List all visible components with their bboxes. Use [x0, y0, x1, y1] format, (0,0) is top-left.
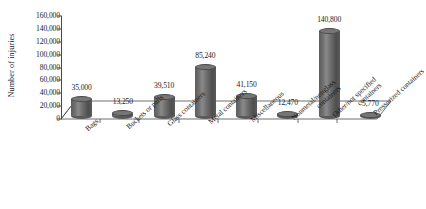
y-axis-tick-label: 140,000	[14, 25, 60, 33]
y-axis-tick-label: 60,000	[14, 77, 60, 85]
bar-value-label: 85,240	[195, 52, 215, 60]
bar-value-label: 35,000	[71, 84, 91, 92]
y-axis-tick-label: 40,000	[14, 89, 60, 97]
y-axis-tick-labels: 160,000140,000120,000100,00080,00060,000…	[14, 0, 60, 130]
bar-value-label: 140,800	[317, 16, 341, 24]
bar-value-label: 41,150	[236, 81, 256, 89]
bar	[71, 96, 92, 119]
y-axis-tick-label: 160,000	[14, 12, 60, 20]
y-axis-tick-label: 80,000	[14, 64, 60, 72]
y-axis-tick-label: 100,000	[14, 51, 60, 59]
y-axis-tick-label: 120,000	[14, 38, 60, 46]
cylinder	[71, 96, 92, 119]
y-axis-tick-label: 0	[14, 115, 60, 123]
bar-value-label: 13,250	[113, 98, 133, 106]
y-axis-tick-label: 20,000	[14, 102, 60, 110]
bar-value-label: 39,510	[154, 82, 174, 90]
